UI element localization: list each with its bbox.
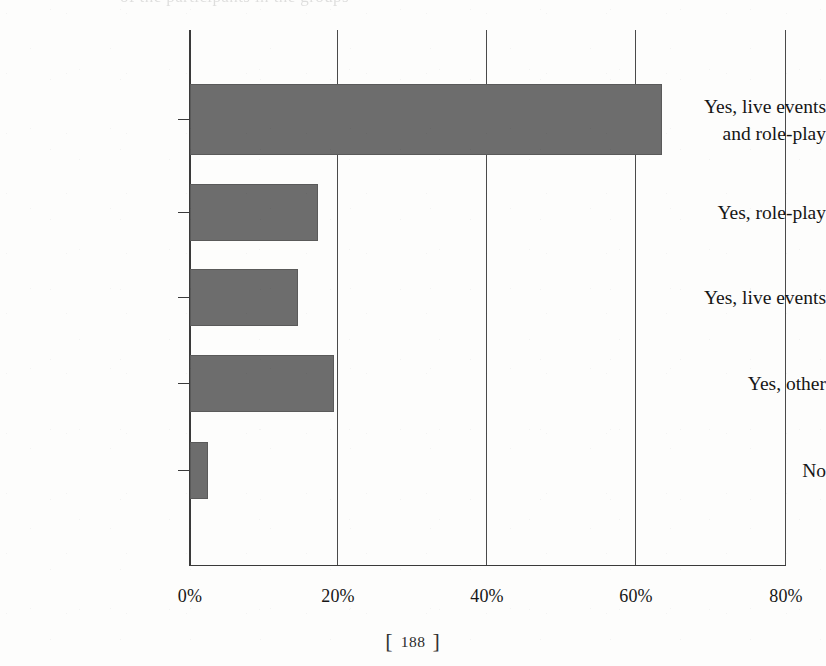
- x-tick-label-60: 60%: [619, 586, 653, 607]
- y-tick-mark-1: [178, 212, 189, 213]
- y-label-no: No: [658, 458, 826, 484]
- page-number: [188]: [0, 628, 826, 654]
- y-label-yes-role-play: Yes, role-play: [658, 200, 826, 226]
- x-tick-label-20: 20%: [321, 586, 355, 607]
- scanned-page: of the participants in the groups Yes, l…: [0, 0, 826, 666]
- bar-yes-role-play: [190, 184, 318, 241]
- y-label-yes-live-events: Yes, live events: [658, 285, 826, 311]
- x-axis-line: [189, 565, 786, 566]
- y-label-yes-other: Yes, other: [658, 371, 826, 397]
- bar-yes-live-events: [190, 269, 298, 326]
- y-tick-mark-3: [178, 383, 189, 384]
- page-number-bracket-left: [: [385, 628, 393, 653]
- y-tick-mark-2: [178, 297, 189, 298]
- y-tick-mark-4: [178, 470, 189, 471]
- x-tick-label-80: 80%: [769, 586, 803, 607]
- y-label-yes-live-events-and-role-play: Yes, live events and role-play: [658, 93, 826, 147]
- bar-yes-other: [190, 355, 334, 412]
- bar-yes-live-events-and-role-play: [190, 84, 662, 155]
- bar-chart: Yes, live events and role-play Yes, role…: [0, 0, 826, 666]
- bar-no: [190, 442, 208, 499]
- y-tick-mark-0: [178, 119, 189, 120]
- page-number-bracket-right: ]: [432, 628, 440, 653]
- x-tick-label-0: 0%: [178, 586, 202, 607]
- x-tick-label-40: 40%: [470, 586, 504, 607]
- page-number-value: 188: [394, 633, 433, 650]
